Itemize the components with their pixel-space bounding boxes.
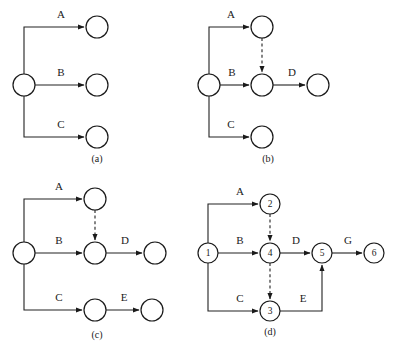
panel-d-node-2-label: 2 bbox=[268, 199, 273, 209]
panel-d-node-4-label: 4 bbox=[268, 248, 273, 258]
panel-c-a-target bbox=[84, 188, 106, 210]
panel-d-caption: (d) bbox=[264, 326, 276, 338]
panels-layer: ABC(a)ABDC(b)ABDCE(c)ABCDEG123456(d) bbox=[13, 8, 384, 342]
panel-c-edge-c-label: C bbox=[55, 291, 62, 303]
panel-c-c-target bbox=[84, 299, 106, 321]
panel-a-a-target bbox=[86, 16, 108, 38]
panel-a-edge-b-label: B bbox=[57, 66, 64, 78]
panel-c-edge-b-label: B bbox=[55, 234, 62, 246]
panel-c: ABDCE(c) bbox=[13, 180, 166, 342]
activity-network-diagram-svg: ABC(a)ABDC(b)ABDCE(c)ABCDEG123456(d) bbox=[0, 0, 404, 351]
panel-a-edge-a bbox=[24, 27, 84, 74]
panel-a: ABC(a) bbox=[13, 8, 108, 166]
panel-c-edge-c bbox=[24, 264, 82, 310]
panel-c-b-target bbox=[84, 242, 106, 264]
panel-b-edge-b-label: B bbox=[228, 66, 235, 78]
panel-b: ABDC(b) bbox=[198, 8, 329, 166]
panel-b-edge-c bbox=[209, 96, 249, 137]
panel-d-node-6-label: 6 bbox=[372, 248, 377, 258]
panel-a-b-target bbox=[86, 74, 108, 96]
panel-d-edge-g-label: G bbox=[344, 234, 352, 246]
panel-b-edge-d-label: D bbox=[288, 66, 296, 78]
panel-d-edge-d-label: D bbox=[292, 234, 300, 246]
panel-b-d-target bbox=[307, 74, 329, 96]
panel-c-d-target bbox=[144, 242, 166, 264]
panel-a-edge-c-label: C bbox=[57, 118, 64, 130]
panel-d-edge-e-label: E bbox=[300, 292, 307, 304]
panel-b-start bbox=[198, 74, 220, 96]
panel-a-edge-c bbox=[24, 96, 84, 137]
panel-b-edge-a-label: A bbox=[227, 8, 235, 20]
panel-a-edge-a-label: A bbox=[57, 8, 65, 20]
panel-d-node-3-label: 3 bbox=[268, 306, 273, 316]
panel-c-edge-d-label: D bbox=[121, 234, 129, 246]
panel-d-node-1-label: 1 bbox=[206, 248, 211, 258]
panel-b-b-target bbox=[251, 74, 273, 96]
figure-root: ABC(a)ABDC(b)ABDCE(c)ABCDEG123456(d) bbox=[0, 0, 404, 351]
panel-d-edge-a bbox=[208, 204, 258, 243]
panel-d-edge-c bbox=[208, 263, 258, 311]
panel-d-node-5-label: 5 bbox=[320, 248, 325, 258]
panel-c-edge-a-label: A bbox=[55, 180, 63, 192]
panel-a-c-target bbox=[86, 126, 108, 148]
panel-c-edge-e-label: E bbox=[121, 291, 128, 303]
panel-b-edge-c-label: C bbox=[227, 118, 234, 130]
panel-c-start bbox=[13, 242, 35, 264]
panel-a-start bbox=[13, 74, 35, 96]
panel-d-edge-e bbox=[280, 265, 322, 311]
panel-b-caption: (b) bbox=[262, 153, 274, 165]
panel-d-edge-a-label: A bbox=[236, 185, 244, 197]
panel-d-edge-b-label: B bbox=[236, 234, 243, 246]
panel-c-e-target bbox=[141, 299, 163, 321]
panel-c-edge-a bbox=[24, 199, 82, 242]
panel-d-edge-c-label: C bbox=[236, 292, 243, 304]
panel-b-c-target bbox=[251, 126, 273, 148]
panel-b-a-target bbox=[251, 16, 273, 38]
panel-a-caption: (a) bbox=[91, 153, 102, 165]
panel-d: ABCDEG123456(d) bbox=[198, 185, 384, 339]
panel-c-caption: (c) bbox=[91, 329, 102, 341]
